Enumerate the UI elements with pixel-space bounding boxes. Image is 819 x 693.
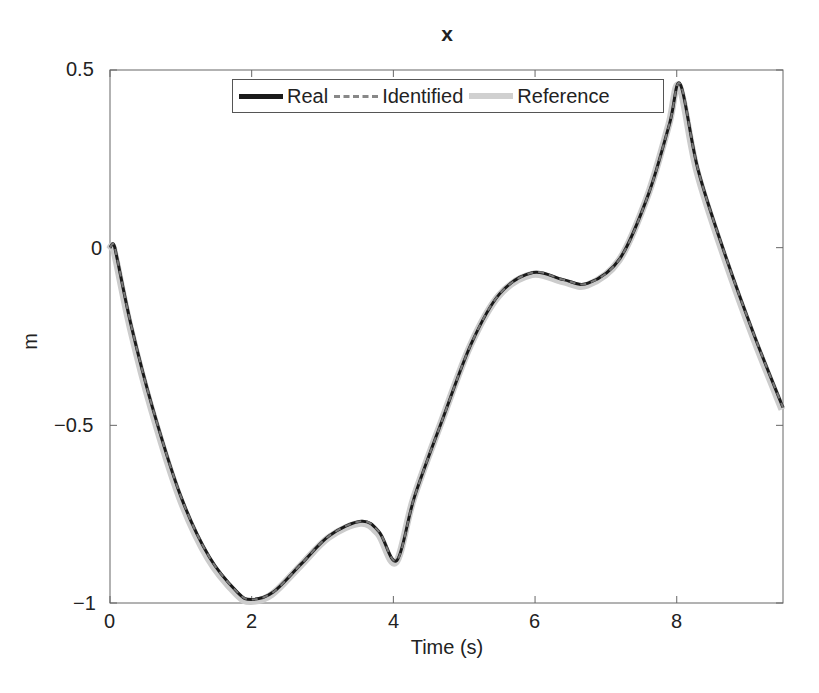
x-tick-label: 6 xyxy=(529,610,540,633)
legend: Real Identified Reference xyxy=(232,79,664,113)
solid-line-icon xyxy=(239,94,283,99)
x-axis-label: Time (s) xyxy=(0,636,819,659)
y-tick-label: −0.5 xyxy=(54,414,93,437)
legend-item-reference: Reference xyxy=(469,85,609,108)
x-tick-label: 4 xyxy=(388,610,399,633)
solid-line-icon xyxy=(469,93,513,99)
x-tick-label: 0 xyxy=(104,610,115,633)
series-identified xyxy=(110,83,783,600)
y-tick-label: 0 xyxy=(91,237,102,260)
x-tick-label: 2 xyxy=(246,610,257,633)
legend-label: Reference xyxy=(517,85,609,108)
legend-item-identified: Identified xyxy=(334,85,463,108)
y-axis-label: m xyxy=(19,333,42,350)
series-reference xyxy=(109,85,782,602)
y-tick-label: −1 xyxy=(73,592,96,615)
legend-label: Real xyxy=(287,85,328,108)
chart-title: x xyxy=(0,22,819,46)
series-real xyxy=(110,83,783,600)
legend-item-real: Real xyxy=(239,85,328,108)
axes-box xyxy=(110,70,783,603)
x-tick-label: 8 xyxy=(671,610,682,633)
dashed-line-icon xyxy=(334,95,378,98)
legend-label: Identified xyxy=(382,85,463,108)
y-tick-label: 0.5 xyxy=(66,58,94,81)
